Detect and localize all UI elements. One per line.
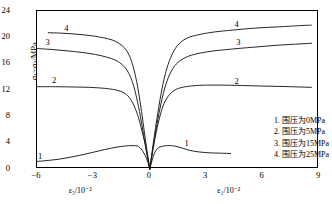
curve-label-4: 4 [234,20,238,29]
curve-label-1: 1 [185,139,189,148]
legend: 1. 围压为0MPa 2. 围压为5MPa 3. 围压为15MPa 4. 围压为… [274,115,329,161]
y-tick-label: 4 [0,137,10,146]
y-tick-label: 12 [0,85,10,94]
y-tick-label: 8 [0,111,10,120]
curve-2-lateral [37,87,150,169]
x-tick-label: 9 [306,171,330,180]
legend-item-3: 3. 围压为15MPa [274,138,329,149]
curve-label-2: 2 [52,76,56,85]
x-axis-label-axial: ε₁/10⁻² [217,186,240,195]
legend-item-2: 2. 围压为5MPa [274,126,329,137]
plot-area: 43214321 1. 围压为0MPa 2. 围压为5MPa 3. 围压为15M… [36,10,318,168]
legend-item-1: 1. 围压为0MPa [274,115,329,126]
legend-item-4: 4. 围压为25MPa [274,149,329,160]
y-tick-label: 20 [0,32,10,41]
y-tick-label: 0 [0,164,10,173]
curve-label-1: 1 [38,152,42,161]
curve-1-lateral [37,146,150,169]
x-tick-label: −6 [24,171,48,180]
curve-4-lateral [48,33,150,169]
chart-figure: σ1−σ3/MPa 04812162024 −6−30369 43214321 … [0,0,332,205]
curve-label-3: 3 [45,38,49,47]
x-axis-label-lateral: ε₃/10⁻² [69,186,92,195]
curve-label-3: 3 [236,38,240,47]
x-tick-label: −3 [80,171,104,180]
curve-label-2: 2 [234,77,238,86]
x-tick-label: 3 [193,171,217,180]
curve-1-axial [150,146,231,169]
x-tick-label: 6 [250,171,274,180]
x-tick-label: 0 [137,171,161,180]
curve-paths [37,25,311,169]
y-tick-label: 16 [0,58,10,67]
curve-label-4: 4 [64,24,68,33]
y-tick-label: 24 [0,6,10,15]
